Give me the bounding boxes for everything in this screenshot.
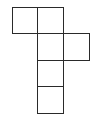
cube-net-diagram — [0, 0, 100, 116]
net-square-lower-center — [37, 60, 64, 87]
net-square-middle-right — [63, 33, 90, 61]
net-square-top-left — [12, 7, 38, 34]
net-square-middle-center — [37, 33, 64, 61]
net-square-bottom-center — [37, 86, 64, 114]
net-square-top-center — [37, 7, 64, 34]
